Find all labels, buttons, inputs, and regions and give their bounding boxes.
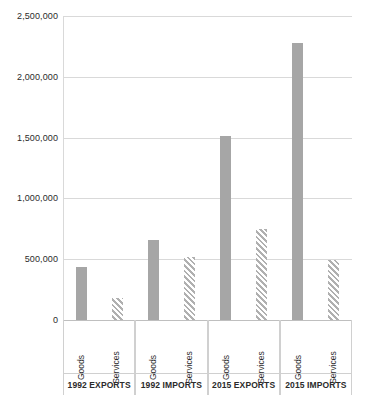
series-label-row: GoodsServices [136, 320, 206, 374]
series-label-cell: Services [244, 320, 279, 374]
series-label-cell: Goods [209, 320, 244, 374]
bar-1992-exports-services [112, 298, 123, 320]
y-axis-tick-label: 500,000 [0, 255, 58, 264]
gridline [63, 198, 352, 199]
series-label-cell: Goods [136, 320, 171, 374]
y-axis-line [63, 16, 64, 320]
category-group-1992-exports: GoodsServices1992 EXPORTS [63, 320, 135, 395]
bar-2015-exports-goods [220, 136, 231, 320]
category-group-1992-imports: GoodsServices1992 IMPORTS [135, 320, 207, 395]
y-axis-tick-label: 1,000,000 [0, 194, 58, 203]
gridline [63, 138, 352, 139]
series-label-cell: Goods [64, 320, 99, 374]
series-label-cell: Services [99, 320, 134, 374]
series-label-row: GoodsServices [64, 320, 134, 374]
gridline [63, 16, 352, 17]
gridline [63, 259, 352, 260]
bar-1992-exports-goods [76, 267, 87, 321]
bar-1992-imports-goods [148, 240, 159, 320]
bar-2015-imports-services [328, 260, 339, 320]
series-label-cell: Goods [281, 320, 316, 374]
group-label: 2015 IMPORTS [285, 380, 346, 390]
series-label-row: GoodsServices [281, 320, 351, 374]
group-label: 1992 IMPORTS [141, 380, 202, 390]
series-label-row: GoodsServices [209, 320, 279, 374]
y-axis-tick-label: 2,500,000 [0, 12, 58, 21]
group-label: 2015 EXPORTS [212, 380, 275, 390]
gridline [63, 77, 352, 78]
series-label-cell: Services [316, 320, 351, 374]
group-label-cell: 2015 EXPORTS [209, 374, 279, 395]
group-label-cell: 2015 IMPORTS [281, 374, 351, 395]
bar-2015-imports-goods [292, 43, 303, 320]
bar-2015-exports-services [256, 229, 267, 320]
category-axis: GoodsServices1992 EXPORTSGoodsServices19… [63, 320, 352, 395]
category-group-2015-imports: GoodsServices2015 IMPORTS [280, 320, 352, 395]
bar-chart: 0500,0001,000,0001,500,0002,000,0002,500… [0, 0, 368, 413]
category-group-2015-exports: GoodsServices2015 EXPORTS [208, 320, 280, 395]
bar-1992-imports-services [184, 257, 195, 320]
series-label-cell: Services [171, 320, 206, 374]
plot-area [63, 16, 352, 320]
y-axis-tick-label: 0 [0, 316, 58, 325]
group-label-cell: 1992 EXPORTS [64, 374, 134, 395]
group-label-cell: 1992 IMPORTS [136, 374, 206, 395]
y-axis-tick-label: 1,500,000 [0, 133, 58, 142]
y-axis-tick-label: 2,000,000 [0, 72, 58, 81]
group-label: 1992 EXPORTS [68, 380, 131, 390]
